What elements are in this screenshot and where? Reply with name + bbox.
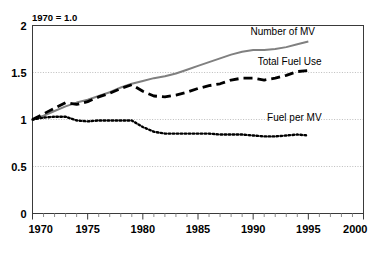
- series-label-1: Total Fuel Use: [258, 56, 322, 67]
- x-tick-label: 1980: [131, 223, 155, 235]
- x-tick-label: 1995: [296, 223, 320, 235]
- x-tick-label: 1990: [241, 223, 265, 235]
- y-tick-label: 0.5: [11, 161, 26, 173]
- y-tick-label: 2: [20, 20, 26, 32]
- series-label-0: Number of MV: [250, 26, 315, 37]
- series-label-2: Fuel per MV: [267, 112, 322, 123]
- x-tick-label: 2000: [343, 223, 367, 235]
- y-tick-label: 0: [20, 208, 26, 220]
- x-tick-label: 1970: [29, 223, 53, 235]
- x-axis-tick-labels: 1970197519801985199019952000: [29, 223, 368, 235]
- x-tick-label: 1975: [75, 223, 99, 235]
- x-tick-label: 1985: [186, 223, 210, 235]
- baseline-note: 1970 = 1.0: [32, 12, 77, 23]
- chart-background: [0, 0, 385, 254]
- chart-container: 00.511.52 1970197519801985199019952000 N…: [0, 0, 385, 254]
- line-chart: 00.511.52 1970197519801985199019952000 N…: [0, 0, 385, 254]
- y-tick-label: 1: [20, 114, 26, 126]
- y-tick-label: 1.5: [11, 67, 26, 79]
